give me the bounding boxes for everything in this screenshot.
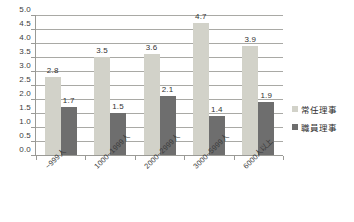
plot-area: 2.81.73.51.53.62.14.71.43.91.9: [36, 15, 283, 155]
y-axis-tick-label: 0.5: [0, 132, 31, 140]
chart-legend: 常任理事 職員理事: [292, 101, 354, 137]
y-axis-tick-label: 3.0: [0, 62, 31, 70]
x-axis-tick-mark: [36, 156, 37, 160]
bar-value-label: 2.8: [39, 66, 67, 75]
x-axis-tick-mark: [184, 156, 185, 160]
y-axis-tick-mark: [31, 71, 35, 72]
y-axis-tick-label: 1.0: [0, 118, 31, 126]
y-axis-tick-label: 1.5: [0, 104, 31, 112]
x-axis-tick-mark: [234, 156, 235, 160]
y-axis-tick-mark: [31, 43, 35, 44]
y-axis-tick-label: 3.5: [0, 48, 31, 56]
bar-value-label: 3.9: [236, 35, 264, 44]
bar[interactable]: [144, 54, 160, 155]
bar-chart: 0.00.51.01.52.02.53.03.54.04.55.0 2.81.7…: [0, 0, 354, 222]
bar-value-label: 3.5: [88, 46, 116, 55]
bar-value-label: 1.9: [252, 91, 280, 100]
bar-value-label: 1.7: [55, 96, 83, 105]
legend-item-series-1[interactable]: 職員理事: [292, 119, 354, 134]
y-axis: 0.00.51.01.52.02.53.03.54.04.55.0: [0, 10, 31, 156]
legend-item-series-0[interactable]: 常任理事: [292, 101, 354, 116]
y-axis-tick-mark: [31, 99, 35, 100]
y-axis-tick-label: 0.0: [0, 146, 31, 154]
legend-swatch-icon: [292, 124, 298, 130]
y-axis-tick-mark: [31, 127, 35, 128]
bar-value-label: 1.4: [203, 105, 231, 114]
legend-label: 職員理事: [301, 121, 337, 133]
bar-value-label: 3.6: [138, 43, 166, 52]
bar-value-label: 4.7: [187, 12, 215, 21]
y-axis-tick-mark: [31, 113, 35, 114]
x-axis-tick-mark: [85, 156, 86, 160]
gridline: [36, 29, 283, 30]
legend-swatch-icon: [292, 106, 298, 112]
y-axis-tick-mark: [31, 15, 35, 16]
legend-label: 常任理事: [301, 103, 337, 115]
bar-value-label: 1.5: [104, 102, 132, 111]
y-axis-tick-label: 4.0: [0, 34, 31, 42]
bar[interactable]: [45, 77, 61, 155]
y-axis-tick-mark: [31, 141, 35, 142]
x-axis-tick-mark: [283, 156, 284, 160]
y-axis-tick-mark: [31, 29, 35, 30]
bar[interactable]: [61, 107, 77, 155]
x-axis-tick-mark: [135, 156, 136, 160]
y-axis-tick-label: 5.0: [0, 6, 31, 14]
y-axis-tick-label: 2.5: [0, 76, 31, 84]
bar-value-label: 2.1: [154, 85, 182, 94]
bar[interactable]: [193, 23, 209, 155]
y-axis-tick-mark: [31, 57, 35, 58]
y-axis-tick-mark: [31, 155, 35, 156]
gridline: [36, 15, 283, 16]
y-axis-tick-mark: [31, 85, 35, 86]
y-axis-tick-label: 4.5: [0, 20, 31, 28]
y-axis-tick-label: 2.0: [0, 90, 31, 98]
bar[interactable]: [242, 46, 258, 155]
